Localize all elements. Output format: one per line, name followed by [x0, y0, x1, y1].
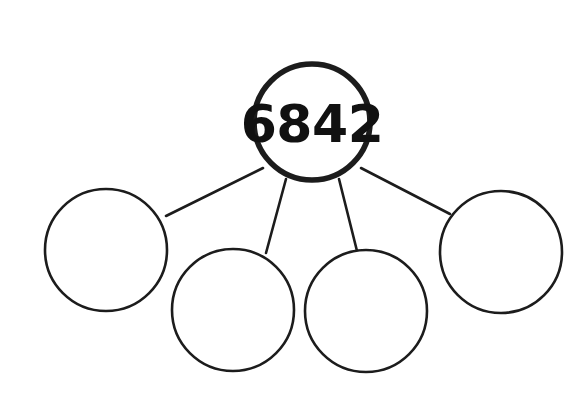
connector-whole-to-part-1	[166, 168, 263, 216]
parent-node-whole[interactable]: 6842	[241, 64, 384, 180]
number-bond-diagram: 6842	[0, 0, 584, 401]
part-circle-4[interactable]	[440, 191, 562, 313]
connector-whole-to-part-3	[339, 179, 357, 251]
child-node-part-2[interactable]	[172, 249, 294, 371]
connector-whole-to-part-4	[361, 168, 450, 214]
part-circle-1[interactable]	[45, 189, 167, 311]
number-bond-worksheet: 6842	[0, 0, 584, 401]
part-circle-3[interactable]	[305, 250, 427, 372]
connector-whole-to-part-2	[266, 179, 286, 253]
part-circle-2[interactable]	[172, 249, 294, 371]
child-node-part-3[interactable]	[305, 250, 427, 372]
child-node-part-4[interactable]	[440, 191, 562, 313]
child-node-part-1[interactable]	[45, 189, 167, 311]
whole-circle-value: 6842	[241, 94, 384, 154]
